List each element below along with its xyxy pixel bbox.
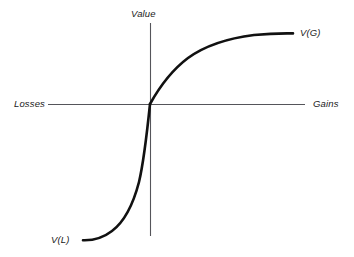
- losses-axis-label: Losses: [14, 99, 45, 109]
- figure-background: [0, 0, 354, 257]
- gain-curve-label: V(G): [300, 28, 321, 38]
- value-function-figure: Value Losses Gains V(G) V(L): [0, 0, 354, 257]
- value-axis-label: Value: [131, 9, 156, 19]
- figure-canvas: [0, 0, 354, 257]
- gains-axis-label: Gains: [313, 99, 339, 109]
- loss-curve-label: V(L): [51, 235, 70, 245]
